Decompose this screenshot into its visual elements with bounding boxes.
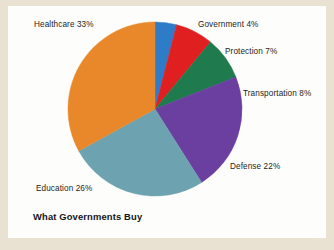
pie-chart: Healthcare 33% Government 4% Protection … bbox=[8, 6, 326, 238]
slice-label-government: Government 4% bbox=[198, 20, 258, 29]
chart-title: What Governments Buy bbox=[33, 211, 142, 222]
slice-label-healthcare: Healthcare 33% bbox=[34, 20, 94, 29]
slice-label-defense: Defense 22% bbox=[230, 162, 280, 171]
pie-slice-group bbox=[68, 22, 242, 196]
slice-label-education: Education 26% bbox=[36, 184, 92, 193]
pie-chart-svg bbox=[8, 6, 326, 238]
slice-label-protection: Protection 7% bbox=[225, 47, 277, 56]
slice-label-transportation: Transportation 8% bbox=[243, 89, 311, 98]
figure-panel: Healthcare 33% Government 4% Protection … bbox=[8, 6, 326, 238]
